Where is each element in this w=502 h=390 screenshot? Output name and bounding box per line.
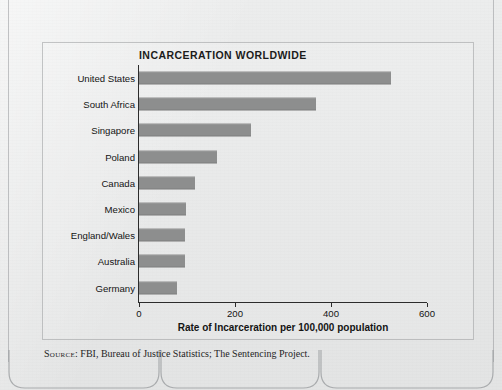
- x-axis-tick: [235, 303, 236, 307]
- bar-row: Singapore: [43, 117, 475, 143]
- y-axis-line: [138, 65, 139, 303]
- category-label: South Africa: [83, 99, 135, 110]
- bar: [139, 124, 251, 137]
- bar-chart-plot-area: GermanyAustraliaEngland/WalesMexicoCanad…: [43, 43, 475, 341]
- bar-row: Canada: [43, 170, 475, 196]
- chart-panel: INCARCERATION WORLDWIDE GermanyAustralia…: [42, 42, 474, 340]
- bar-row: United States: [43, 65, 475, 91]
- bar: [139, 281, 177, 294]
- bar-row: Australia: [43, 248, 475, 274]
- x-axis-tick: [331, 303, 332, 307]
- category-label: England/Wales: [71, 230, 135, 241]
- category-label: Singapore: [91, 125, 135, 136]
- bar-row: South Africa: [43, 91, 475, 117]
- source-text: : FBI, Bureau of Justice Statistics; The…: [75, 348, 310, 359]
- bar: [139, 72, 391, 85]
- scanned-page: INCARCERATION WORLDWIDE GermanyAustralia…: [0, 0, 502, 390]
- source-label: Source: [44, 348, 75, 359]
- x-axis-tick-label: 400: [323, 308, 339, 319]
- bar: [139, 150, 217, 163]
- bar: [139, 255, 185, 268]
- x-axis-tick: [427, 303, 428, 307]
- bar: [139, 176, 195, 189]
- x-axis-line: [138, 302, 427, 303]
- category-label: Germany: [96, 282, 135, 293]
- bar: [139, 229, 185, 242]
- x-axis-tick-label: 200: [227, 308, 243, 319]
- bar-row: Mexico: [43, 196, 475, 222]
- bar-row: Germany: [43, 275, 475, 301]
- bar-row: Poland: [43, 144, 475, 170]
- category-label: United States: [77, 73, 135, 84]
- category-label: Canada: [101, 177, 135, 188]
- bar-row: England/Wales: [43, 222, 475, 248]
- source-note: Source: FBI, Bureau of Justice Statistic…: [44, 348, 310, 359]
- category-label: Australia: [98, 256, 135, 267]
- bar: [139, 203, 186, 216]
- category-label: Poland: [105, 151, 135, 162]
- x-axis-tick-label: 600: [419, 308, 435, 319]
- x-axis-title: Rate of Incarceration per 100,000 popula…: [139, 322, 427, 333]
- x-axis-tick-label: 0: [136, 308, 141, 319]
- bar: [139, 98, 316, 111]
- x-axis-tick: [139, 303, 140, 307]
- category-label: Mexico: [105, 204, 135, 215]
